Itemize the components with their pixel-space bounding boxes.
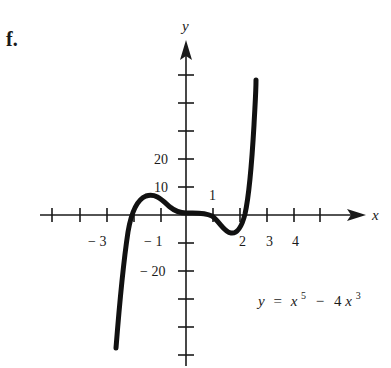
y-axis: y 10 20 − 20 (140, 18, 194, 366)
x-tick-label: 4 (292, 234, 299, 249)
y-axis-label: y (180, 18, 189, 34)
x-tick-label: 2 (239, 234, 246, 249)
x-tick-label: 3 (266, 234, 273, 249)
y-tick-label: − 20 (140, 264, 165, 279)
equation-term2-coef: 4 (334, 293, 342, 309)
x-axis-label: x (371, 207, 379, 223)
equation-lhs: y (256, 293, 265, 309)
equation-equals: = (273, 293, 281, 309)
y-tick-label: 10 (154, 180, 168, 195)
part-label: f. (6, 28, 18, 50)
function-graph: f. x − 3 − 1 1 2 3 4 (0, 0, 391, 368)
equation-label: y = x 5 − 4 x 3 (256, 286, 361, 309)
x-tick-label: 1 (209, 188, 216, 203)
x-tick-label: − 3 (88, 234, 106, 249)
equation-term2-base: x (344, 293, 352, 309)
x-axis: x − 3 − 1 1 2 3 4 (40, 188, 379, 249)
equation-minus: − (316, 293, 324, 309)
x-tick-label: − 1 (144, 234, 162, 249)
equation-term1-exp: 5 (301, 290, 306, 301)
equation-term1-base: x (290, 293, 298, 309)
equation-term2-exp: 3 (356, 290, 361, 301)
y-tick-label: 20 (154, 152, 168, 167)
